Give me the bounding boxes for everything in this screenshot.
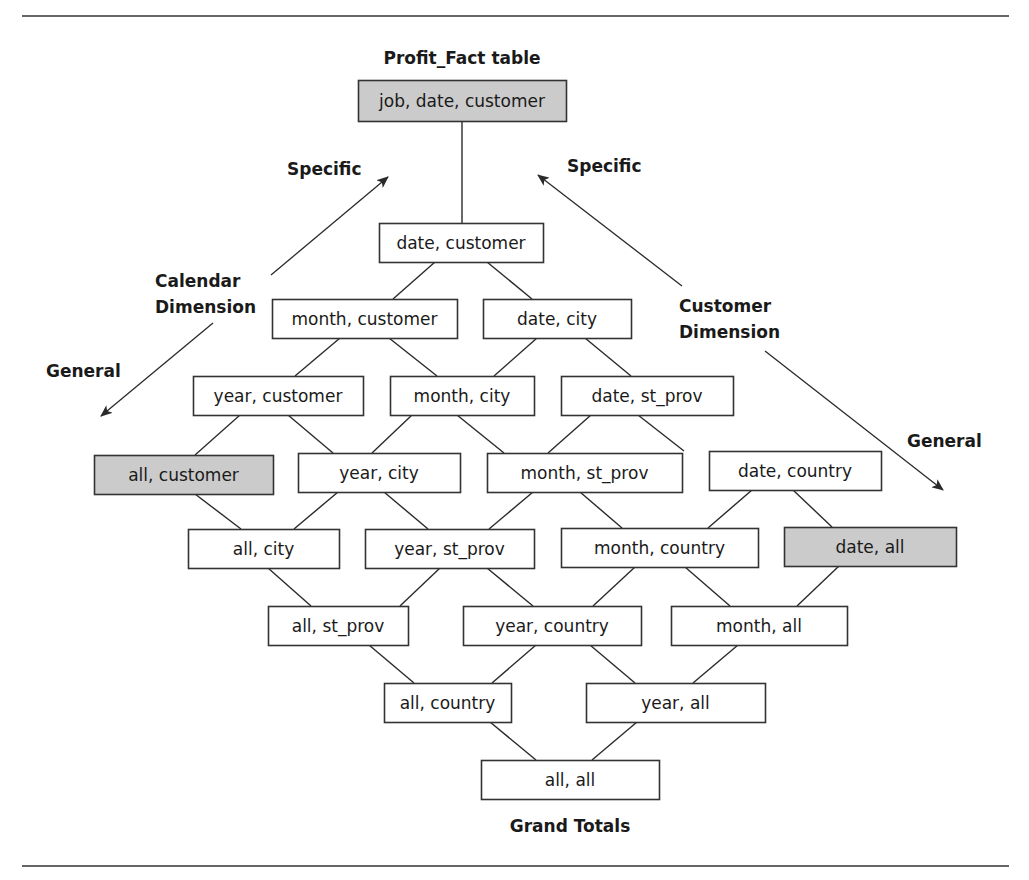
aggregation-lattice-diagram: job, date, customerdate, customermonth, … — [0, 0, 1029, 880]
node-label: date, country — [738, 461, 852, 481]
node-label: all, st_prov — [292, 616, 385, 637]
lattice-node-month-country: month, country — [562, 529, 759, 568]
customer-specific-label: Specific — [567, 156, 642, 176]
lattice-edge — [580, 492, 622, 528]
node-label: date, all — [835, 537, 904, 557]
fact-table-title: Profit_Fact table — [383, 48, 540, 68]
lattice-node-month-city: month, city — [391, 377, 535, 416]
lattice-edge — [793, 490, 832, 527]
node-label: month, all — [716, 616, 802, 636]
lattice-edge — [288, 415, 333, 453]
lattice-svg: job, date, customerdate, customermonth, … — [0, 0, 1029, 880]
node-label: month, customer — [291, 309, 437, 329]
node-label: year, st_prov — [394, 539, 505, 560]
lattice-edge — [492, 645, 536, 683]
lattice-node-date-customer: date, customer — [380, 224, 544, 263]
lattice-node-all-st-prov: all, st_prov — [269, 607, 409, 646]
lattice-edge — [797, 566, 839, 606]
node-label: year, customer — [214, 386, 343, 406]
lattice-node-all-city: all, city — [189, 530, 340, 569]
node-label: month, country — [594, 538, 725, 558]
lattice-edge — [457, 415, 504, 453]
lattice-node-date-st-prov: date, st_prov — [562, 377, 734, 416]
customer-dimension-label: CustomerDimension — [679, 296, 780, 342]
lattice-edge — [489, 492, 533, 529]
node-label: all, city — [233, 539, 294, 559]
lattice-edge — [195, 494, 241, 529]
node-label: year, city — [339, 463, 419, 483]
node-label: year, country — [495, 616, 609, 636]
lattice-edge — [487, 568, 533, 606]
lattice-node-year-st-prov: year, st_prov — [366, 530, 535, 569]
lattice-node-month-customer: month, customer — [273, 300, 458, 339]
lattice-edge — [590, 645, 635, 683]
lattice-edge — [389, 338, 437, 376]
lattice-edge — [268, 568, 311, 606]
lattice-edge — [490, 722, 536, 760]
horizontal-rules — [22, 16, 1009, 866]
lattice-node-all-country: all, country — [385, 684, 512, 723]
calendar-dimension-label: CalendarDimension — [155, 271, 256, 317]
grand-totals-label: Grand Totals — [510, 816, 631, 836]
lattice-edge — [372, 415, 412, 453]
node-label: date, city — [517, 309, 597, 329]
lattice-edge — [708, 490, 752, 528]
lattice-edge — [294, 492, 338, 529]
customer-general-label: General — [907, 431, 982, 451]
lattice-edge — [638, 415, 684, 451]
node-label: month, st_prov — [521, 463, 649, 484]
lattice-node-date-country: date, country — [710, 452, 882, 491]
calendar-specific-arrow-icon — [271, 177, 388, 275]
calendar-specific-label: Specific — [287, 159, 362, 179]
lattice-edge — [592, 722, 637, 760]
lattice-node-month-st-prov: month, st_prov — [488, 454, 683, 493]
lattice-node-date-all: date, all — [785, 528, 957, 567]
lattice-edge — [548, 415, 591, 453]
lattice-edge — [593, 567, 635, 606]
lattice-edge — [585, 338, 631, 376]
calendar-general-label: General — [46, 361, 121, 381]
lattice-edge — [369, 645, 414, 683]
node-label: month, city — [414, 386, 511, 406]
node-label: year, all — [641, 693, 710, 713]
lattice-node-year-customer: year, customer — [194, 377, 364, 416]
lattice-edge — [295, 338, 340, 376]
lattice-node-all-customer: all, customer — [95, 456, 274, 495]
lattice-node-month-all: month, all — [672, 607, 848, 646]
lattice-node-job-date-customer: job, date, customer — [359, 81, 567, 122]
lattice-edges — [195, 121, 839, 760]
node-label: date, st_prov — [591, 386, 702, 407]
lattice-edge — [393, 262, 435, 299]
lattice-node-all-all: all, all — [482, 761, 660, 800]
lattice-edge — [400, 568, 440, 606]
node-label: job, date, customer — [378, 91, 545, 111]
lattice-edge — [384, 492, 428, 529]
node-label: all, all — [545, 770, 596, 790]
node-label: all, country — [400, 693, 496, 713]
node-label: all, customer — [128, 465, 239, 485]
lattice-node-year-all: year, all — [587, 684, 766, 723]
lattice-node-date-city: date, city — [484, 300, 632, 339]
lattice-edge — [494, 338, 537, 376]
lattice-nodes: job, date, customerdate, customermonth, … — [95, 81, 957, 800]
lattice-node-year-country: year, country — [464, 607, 642, 646]
lattice-edge — [685, 567, 730, 606]
lattice-edge — [693, 645, 738, 683]
lattice-edge — [487, 262, 532, 299]
customer-specific-arrow-icon — [538, 175, 682, 286]
lattice-edge — [195, 415, 240, 455]
lattice-node-year-city: year, city — [299, 454, 461, 493]
node-label: date, customer — [396, 233, 525, 253]
